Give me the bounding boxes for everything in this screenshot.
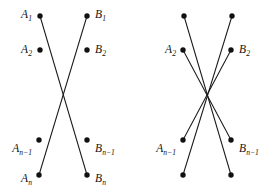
label-r-an-1: An−1 [156,143,176,157]
label-b1: B1 [95,9,106,23]
label-a2: A2 [21,44,32,58]
label-b2: B2 [95,44,106,58]
diagram-svg [0,0,273,195]
label-r-a2: A2 [165,44,176,58]
vertex-r-bn [228,172,233,177]
label-bn: Bn [95,173,106,187]
vertex-r-b2 [228,47,233,52]
vertex-r-an [180,172,185,177]
label-bn-1: Bn−1 [95,143,115,157]
label-r-bn-1: Bn−1 [239,143,259,157]
vertex-an [36,172,41,177]
vertex-a1 [37,13,42,18]
vertex-b2 [84,47,89,52]
figure-canvas: A1 A2 An−1 An B1 B2 Bn−1 Bn A2 An−1 B2 B… [0,0,273,195]
right-diagram-edges [183,16,232,175]
vertex-r-a1 [181,13,186,18]
left-diagram-edges [39,16,87,175]
vertex-an-1 [36,137,41,142]
label-an: An [21,173,32,187]
vertex-r-b1 [229,13,234,18]
vertex-bn [84,172,89,177]
vertex-r-bn-1 [228,137,233,142]
label-r-b2: B2 [239,44,250,58]
vertex-a2 [37,47,42,52]
label-a1: A1 [21,9,32,23]
vertex-r-a2 [180,47,185,52]
vertex-b1 [84,13,89,18]
vertex-bn-1 [84,137,89,142]
vertex-r-an-1 [180,137,185,142]
edge-r-an-b1 [183,16,232,175]
label-an-1: An−1 [12,143,32,157]
